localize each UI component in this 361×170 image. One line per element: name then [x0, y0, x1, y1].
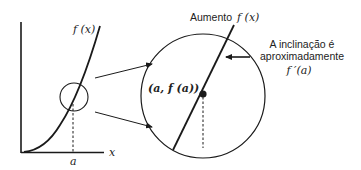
point-coordinate-label: (a, f (a))	[148, 82, 199, 95]
zoom-connectors	[95, 64, 152, 127]
x-axis-label: x	[109, 146, 116, 159]
upper-zoom-arrow	[95, 64, 152, 78]
left-graph: f (x) x a	[21, 22, 116, 168]
small-zoom-circle	[60, 83, 88, 111]
slope-annotation-line1: A inclinação é	[270, 38, 335, 50]
zoom-title: Aumento f (x)	[190, 7, 259, 24]
point-marker	[199, 90, 206, 97]
diagram-canvas: f (x) x a Aumento f (x) (a, f (a)) A inc…	[0, 0, 361, 170]
curve-label: f (x)	[72, 23, 95, 36]
slope-annotation-line2: aproximadamente	[260, 50, 344, 62]
slope-annotation-line3: f ′(a)	[285, 64, 311, 77]
zoomed-view: Aumento f (x) (a, f (a)) A inclinação é …	[141, 7, 344, 158]
point-a-label: a	[70, 155, 77, 168]
